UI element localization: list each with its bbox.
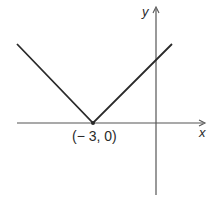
y-axis-label: y — [141, 4, 150, 19]
vertex-label: (− 3, 0) — [72, 128, 117, 144]
y-axis — [153, 7, 159, 195]
absolute-value-graph: y x (− 3, 0) — [0, 0, 219, 197]
v-shaped-curve — [17, 44, 172, 123]
x-axis — [17, 120, 205, 126]
x-axis-label: x — [198, 125, 206, 140]
vertex-point — [91, 121, 95, 125]
